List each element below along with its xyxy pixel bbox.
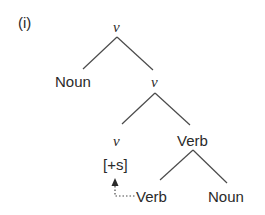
branch-v1-right (155, 93, 190, 125)
branch-root-left (83, 37, 117, 69)
node-noun-1: Noun (55, 74, 91, 89)
node-v-1: v (151, 75, 158, 90)
node-root-v: v (113, 20, 120, 35)
branch-v1-left (122, 93, 155, 124)
node-feature-s: [+s] (103, 157, 128, 172)
arrow-up-icon (112, 178, 119, 186)
branch-verb-right (193, 150, 227, 183)
node-verb-1: Verb (177, 133, 208, 148)
tree-branches (0, 0, 265, 215)
branch-root-right (117, 37, 153, 70)
node-verb-2: Verb (136, 189, 167, 204)
node-noun-2: Noun (208, 189, 244, 204)
movement-dotted-line (115, 186, 135, 196)
branch-verb-left (160, 150, 193, 180)
node-v-2: v (113, 134, 120, 149)
